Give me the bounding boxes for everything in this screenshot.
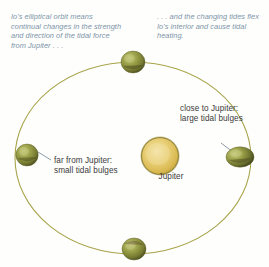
label-far-from-jupiter: far from Jupiter: small tidal bulges xyxy=(54,156,124,176)
label-close-to-jupiter: close to Jupiter: large tidal bulges xyxy=(180,104,255,124)
caption-left-text: Io's elliptical orbit means continual ch… xyxy=(11,12,123,50)
caption-right-text: . . . and the changing tides flex Io's i… xyxy=(157,12,265,41)
label-jupiter: Jupiter xyxy=(141,172,201,182)
orbit-ellipse xyxy=(15,62,251,254)
io-moon-bottom xyxy=(122,238,146,260)
jupiter-body xyxy=(141,137,180,176)
io-moon-top xyxy=(121,51,145,73)
leader-line-far xyxy=(38,152,51,160)
io-moon-left xyxy=(16,144,38,166)
io-tidal-heating-figure: Io's elliptical orbit means continual ch… xyxy=(0,0,269,267)
io-moon-right xyxy=(226,147,254,167)
